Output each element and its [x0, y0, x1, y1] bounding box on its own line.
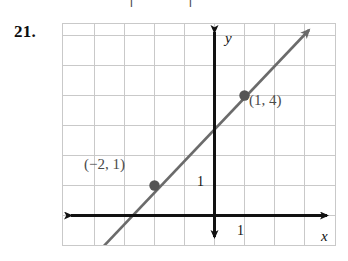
- point-marker: [149, 180, 159, 190]
- x-axis-label: x: [321, 228, 328, 245]
- problem-number: 21.: [14, 22, 36, 42]
- y-unit-label: 1: [197, 174, 204, 190]
- point-label-one-four: (1, 4): [249, 92, 282, 109]
- grid-lines: [63, 24, 335, 245]
- axes: [71, 32, 327, 237]
- point-label-negative-two-one: (−2, 1): [84, 156, 125, 173]
- y-axis-label: y: [225, 30, 232, 47]
- clipped-header-text: | |: [0, 0, 348, 7]
- graph-svg: [63, 24, 335, 245]
- x-unit-label: 1: [237, 223, 244, 239]
- plotted-line: [101, 30, 309, 245]
- math-figure: | | 21.: [0, 0, 348, 261]
- coordinate-plane: [62, 23, 336, 246]
